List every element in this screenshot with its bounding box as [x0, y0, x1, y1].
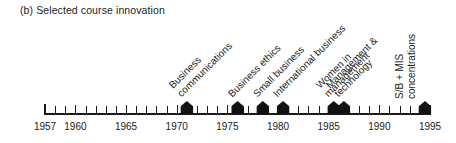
axis-tick	[177, 105, 178, 114]
axis-tick-label: 1995	[419, 121, 441, 133]
axis-tick-label: 1965	[115, 121, 137, 133]
axis-tick	[45, 105, 46, 114]
axis-tick-label: 1960	[64, 121, 86, 133]
axis-tick	[75, 105, 76, 114]
axis-tick	[248, 106, 249, 114]
event-label: S/B + MISconcentrations	[394, 34, 417, 99]
axis-tick	[116, 106, 117, 114]
axis-tick-label: 1957	[34, 121, 56, 133]
axis-tick-label: 1970	[166, 121, 188, 133]
axis-tick	[136, 106, 137, 114]
axis-tick	[359, 106, 360, 114]
axis-tick-label: 1985	[318, 121, 340, 133]
axis-tick	[217, 106, 218, 114]
axis-tick	[156, 106, 157, 114]
event-label-line: concentrations	[405, 34, 417, 99]
timeline-axis-area: 195719601965197019751980198519901995 Bus…	[0, 0, 456, 143]
axis-tick	[106, 106, 107, 114]
timeline-figure: (b) Selected course innovation 195719601…	[0, 0, 456, 143]
event-label-line: S/B + MIS	[394, 34, 406, 99]
axis-tick	[308, 106, 309, 114]
axis-tick	[96, 106, 97, 114]
axis-tick-label: 1990	[368, 121, 390, 133]
axis-tick	[146, 106, 147, 114]
event-marker[interactable]	[256, 101, 269, 114]
event-label: Businesscommunications	[167, 32, 234, 99]
axis-tick	[410, 106, 411, 114]
axis-tick	[207, 106, 208, 114]
axis-tick	[55, 106, 56, 114]
axis-tick	[126, 105, 127, 114]
axis-tick	[298, 106, 299, 114]
axis-tick	[197, 106, 198, 114]
event-marker[interactable]	[337, 101, 350, 114]
event-marker[interactable]	[277, 101, 290, 114]
event-marker[interactable]	[418, 101, 431, 114]
axis-tick-label: 1980	[267, 121, 289, 133]
axis-tick	[369, 106, 370, 114]
axis-tick	[319, 106, 320, 114]
axis-tick-label: 1975	[216, 121, 238, 133]
axis-tick	[389, 106, 390, 114]
event-marker[interactable]	[180, 101, 193, 114]
axis-tick	[227, 105, 228, 114]
event-marker[interactable]	[231, 101, 244, 114]
axis-tick	[65, 106, 66, 114]
axis-tick	[400, 106, 401, 114]
axis-tick	[167, 106, 168, 114]
axis-tick	[379, 105, 380, 114]
axis-tick	[86, 106, 87, 114]
